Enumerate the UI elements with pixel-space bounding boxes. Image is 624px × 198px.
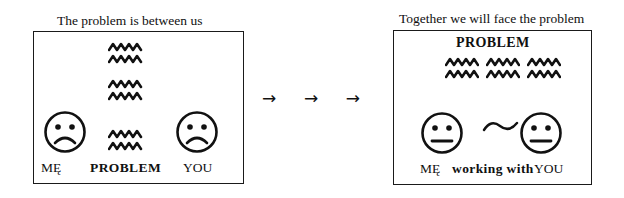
right-arrow-icon: →	[304, 90, 318, 107]
label-problem-before: PROBLEM	[90, 161, 161, 175]
conflict-squiggles-before	[108, 42, 144, 152]
squiggle-icon	[108, 54, 144, 65]
tilde-connector-icon	[481, 116, 521, 138]
squiggle-icon	[486, 57, 520, 68]
label-you-after: YOU	[534, 162, 563, 176]
conflict-squiggles-after	[445, 57, 561, 80]
panel-after-caption: Together we will face the problem	[399, 12, 584, 26]
squiggle-icon	[445, 69, 479, 80]
heading-problem-after: PROBLEM	[456, 36, 530, 50]
squiggle-icon	[486, 69, 520, 80]
squiggle-icon	[527, 69, 561, 80]
label-working-with-after: working with	[452, 162, 534, 176]
transition-arrows: → → →	[262, 90, 360, 107]
squiggle-row	[445, 57, 561, 68]
face-neutral-me-after	[420, 111, 464, 155]
squiggle-icon	[108, 141, 144, 152]
right-arrow-icon: →	[262, 90, 276, 107]
panel-before-caption: The problem is between us	[57, 14, 202, 28]
squiggle-icon	[108, 91, 144, 102]
squiggle-icon	[108, 42, 144, 53]
right-arrow-icon: →	[346, 90, 360, 107]
face-neutral-you-after	[519, 111, 563, 155]
squiggle-row	[445, 69, 561, 80]
squiggle-pair	[108, 129, 144, 152]
face-sad-you-before	[175, 110, 219, 154]
label-you-before: YOU	[183, 161, 212, 175]
squiggle-icon	[108, 129, 144, 140]
squiggle-pair	[108, 79, 144, 102]
squiggle-icon	[108, 79, 144, 90]
squiggle-icon	[527, 57, 561, 68]
squiggle-pair	[108, 42, 144, 65]
squiggle-icon	[445, 57, 479, 68]
label-me-before: MĘ	[41, 161, 61, 175]
label-me-after: MĘ	[420, 162, 440, 176]
face-sad-me-before	[43, 110, 87, 154]
